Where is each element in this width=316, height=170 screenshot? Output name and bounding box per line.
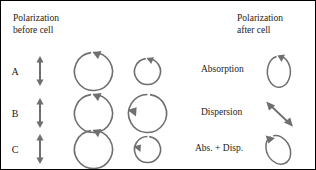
- header-polarization-after-cell: Polarization after cell: [237, 13, 283, 36]
- circular-polarization-clockwise-icon: [71, 49, 116, 94]
- circular-polarization-counter-clockwise-icon: [125, 91, 170, 136]
- diagonal-double-arrow-icon: [263, 99, 297, 129]
- linear-polarization-arrow-icon: [32, 56, 48, 86]
- vertical-ellipse-clockwise-icon: [263, 53, 297, 91]
- polarization-figure: Polarization before cell Polarization af…: [0, 0, 316, 170]
- tilted-ellipse-counter-clockwise-icon: [259, 131, 297, 169]
- result-label-absorption: Absorption: [201, 64, 244, 74]
- row-label-b: B: [9, 109, 21, 119]
- circular-polarization-counter-clockwise-icon: [131, 133, 164, 166]
- row-label-a: A: [9, 67, 21, 77]
- linear-polarization-arrow-icon: [32, 134, 48, 164]
- circular-polarization-clockwise-icon: [131, 55, 164, 88]
- result-label-abs-plus-disp: Abs. + Disp.: [195, 143, 243, 153]
- linear-polarization-arrow-icon: [32, 98, 48, 128]
- header-polarization-before-cell: Polarization before cell: [13, 13, 59, 36]
- result-label-dispersion: Dispersion: [201, 107, 242, 117]
- circular-polarization-clockwise-icon: [71, 127, 116, 170]
- row-label-c: C: [9, 145, 21, 155]
